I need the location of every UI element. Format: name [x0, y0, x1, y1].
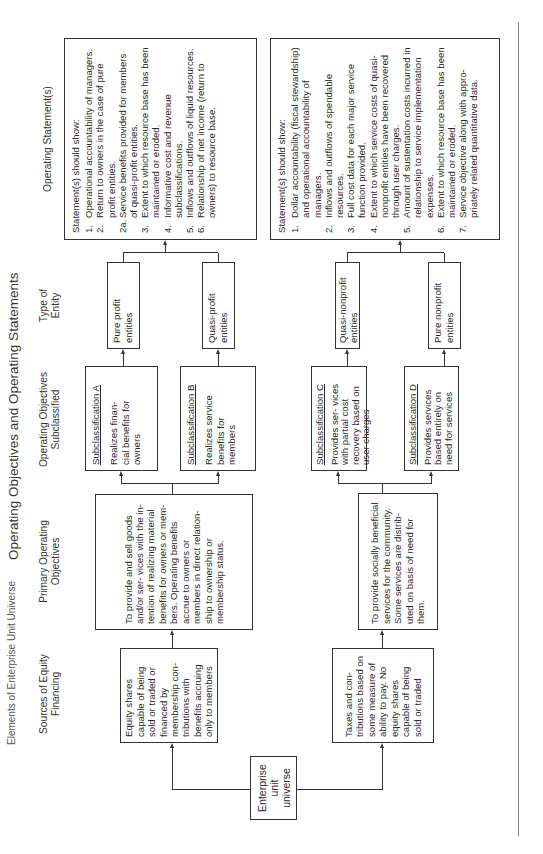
entity-label: Pure nonprofit entities	[432, 283, 455, 343]
subclassification-b-box: Subclassification B Realizes service ben…	[180, 366, 256, 471]
subclassification-d-box: Subclassification D Provides services ba…	[404, 366, 459, 471]
arrow-icon	[216, 349, 220, 354]
figure-title: Operating Objectives and Operating State…	[6, 240, 21, 560]
sub-b-to-entity	[218, 354, 219, 366]
arrow-icon	[380, 630, 384, 635]
statement-item: 3.Extent to which resource base has been…	[139, 45, 161, 233]
subclassification-title: Subclassification B	[185, 372, 196, 465]
arrow-icon	[380, 743, 384, 748]
arrow-icon	[119, 471, 123, 476]
statement-heading: Statement(s) should show:	[276, 45, 287, 233]
subclassification-title: Subclassification D	[408, 372, 419, 465]
arrow-icon	[336, 471, 340, 476]
statement-item: 3.Full cost data for each major service …	[345, 45, 367, 233]
header-subclassified: Operating Objectives Subclassified	[38, 357, 61, 482]
rotated-page: Elements of Enterprise Unit Universe Ope…	[0, 0, 543, 854]
header-entity-type: Type of Entity	[38, 262, 61, 349]
statement-item: 5.Amount of sustentation costs incurred …	[401, 45, 435, 233]
entity-quasi-profit-box: Quasi-profit entities	[202, 262, 235, 349]
nonprofit-merge	[347, 252, 444, 253]
primary-objective-box-nonprofit: To provide socially beneficial services …	[358, 493, 438, 630]
root-label: Enterprise unit universe	[256, 764, 292, 812]
equity-to-primary-a	[172, 635, 173, 648]
equity-source-box-nonprofit: Taxes and con- tributions based on some …	[332, 648, 434, 743]
entity-label: Pure profit entities	[111, 299, 134, 343]
statement-item: 2.Return to owners in the case of pure p…	[94, 45, 116, 233]
header-sources: Sources of Equity Financing	[38, 629, 61, 759]
statement-item: 6.Extent to which resource base has been…	[435, 45, 457, 233]
statement-item: 2.Inflows and outflows of spendable reso…	[323, 45, 345, 233]
statement-item: 6.Relationship of net income (return to …	[195, 45, 217, 233]
enterprise-unit-universe-box: Enterprise unit universe	[250, 756, 297, 820]
subclassification-title: Subclassification A	[90, 372, 101, 465]
entity-d-out	[444, 253, 445, 262]
entity-pure-nonprofit-box: Pure nonprofit entities	[428, 262, 461, 349]
subclassification-text: Provides services based entirely on need…	[423, 372, 455, 465]
sub-c-to-entity	[347, 354, 348, 366]
sub-a-to-entity	[123, 354, 124, 366]
arrow-icon	[345, 349, 349, 354]
statement-item: 5.Inflows and outflows of liquid resourc…	[184, 45, 195, 233]
header-statements: Operating Statement(s)	[42, 38, 54, 240]
root-to-equity-a	[172, 748, 173, 790]
equity-source-text: Taxes and con- tributions based on some …	[343, 654, 423, 737]
statement-item: 1.Operational accountability of managers…	[83, 45, 94, 233]
to-sub-d	[431, 476, 432, 484]
subclassification-title: Subclassification C	[315, 372, 326, 465]
primary-a-stem	[172, 484, 173, 494]
subclassification-text: Provides ser- vices with partial cost re…	[330, 372, 372, 465]
to-sub-b	[218, 476, 219, 484]
statement-item: 4.Informative cost and revenue subclassi…	[162, 45, 184, 233]
statement-item: 1.Dollar accountability (fiscal stewards…	[289, 45, 323, 233]
entity-a-out	[123, 253, 124, 262]
profit-merge-to-stmt	[165, 245, 166, 253]
arrow-icon	[216, 471, 220, 476]
arrow-icon	[429, 471, 433, 476]
arrow-icon	[398, 240, 402, 245]
nonprofit-merge-to-stmt	[400, 245, 401, 253]
equity-source-box-profit: Equity shares capable of being sold or t…	[120, 648, 218, 743]
statement-list: 1.Operational accountability of managers…	[83, 45, 217, 233]
to-sub-c	[338, 476, 339, 484]
operating-statement-box-nonprofit: Statement(s) should show: 1.Dollar accou…	[270, 38, 500, 240]
to-sub-a	[121, 476, 122, 484]
primary-a-branch	[121, 483, 218, 484]
primary-objective-text: To provide and sell goods and/or ser- vi…	[123, 500, 226, 624]
subclassification-text: Realizes service benefits for members	[203, 372, 237, 465]
entity-c-out	[347, 253, 348, 262]
entity-pure-profit-box: Pure profit entities	[107, 262, 140, 349]
equity-source-text: Equity shares capable of being sold or t…	[123, 654, 214, 737]
profit-merge	[123, 252, 218, 253]
statement-item: 2a.Service benefits provided for members…	[117, 45, 139, 233]
equity-to-primary-b	[382, 635, 383, 648]
entity-label: Quasi-nonprofit entities	[337, 277, 359, 343]
page-rule-divider	[518, 22, 519, 836]
arrow-icon	[163, 240, 167, 245]
primary-b-stem	[382, 484, 383, 493]
root-trunk-lower	[297, 789, 383, 790]
operating-statement-box-profit: Statement(s) should show: 1.Operational …	[64, 38, 257, 240]
entity-b-out	[218, 253, 219, 262]
sub-d-to-entity	[444, 354, 445, 366]
statement-item: 4.Extent to which service costs of quasi…	[368, 45, 402, 233]
primary-objective-box-profit: To provide and sell goods and/or ser- vi…	[95, 494, 253, 630]
entity-label: Quasi-profit entities	[206, 293, 229, 343]
statement-heading: Statement(s) should show:	[70, 45, 81, 233]
subclassification-text: Realizes finan- cial benefits for owners	[108, 372, 142, 465]
arrow-icon	[170, 630, 174, 635]
arrow-icon	[121, 349, 125, 354]
statement-item: 7.Service objective along with appro- pr…	[457, 45, 479, 233]
root-to-equity-b	[382, 748, 383, 790]
statement-list: 1.Dollar accountability (fiscal stewards…	[289, 45, 479, 233]
root-trunk	[172, 789, 250, 790]
entity-quasi-nonprofit-box: Quasi-nonprofit entities	[335, 262, 360, 349]
running-title: Elements of Enterprise Unit Universe	[6, 575, 17, 745]
header-primary: Primary Operating Objectives	[38, 494, 61, 629]
subclassification-a-box: Subclassification A Realizes finan- cial…	[85, 366, 158, 471]
subclassification-c-box: Subclassification C Provides ser- vices …	[311, 366, 367, 471]
primary-objective-text: To provide socially beneficial services …	[369, 499, 426, 624]
arrow-icon	[442, 349, 446, 354]
arrow-icon	[170, 743, 174, 748]
primary-b-branch	[338, 483, 431, 484]
